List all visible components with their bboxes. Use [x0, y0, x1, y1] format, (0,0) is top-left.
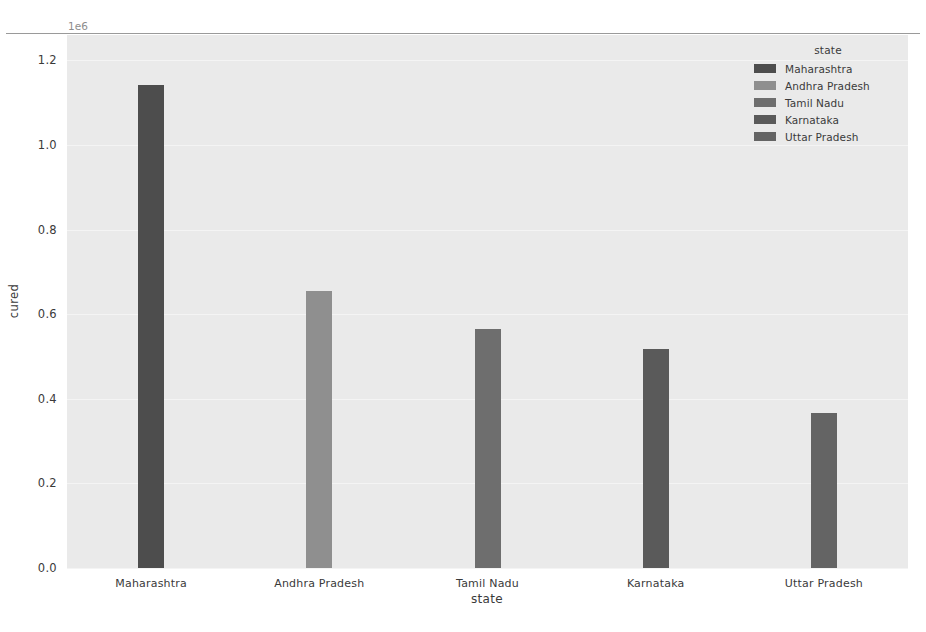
y-axis-label: cured	[7, 284, 21, 318]
legend-swatch-icon	[754, 81, 776, 90]
legend-swatch-icon	[754, 64, 776, 73]
y-tick-label: 0.2	[38, 476, 57, 490]
x-tick-label: Uttar Pradesh	[785, 577, 863, 590]
legend-label: Andhra Pradesh	[785, 80, 870, 92]
figure-top-rule	[6, 33, 920, 34]
y-tick-label: 1.0	[38, 138, 57, 152]
bar	[306, 291, 332, 568]
legend-label: Karnataka	[785, 114, 839, 126]
legend: state MaharashtraAndhra PradeshTamil Nad…	[748, 38, 908, 151]
x-tick-label: Karnataka	[627, 577, 685, 590]
legend-swatch-icon	[754, 98, 776, 107]
bar-chart-figure: 1e6 0.00.20.40.60.81.01.2 cured Maharash…	[0, 0, 926, 632]
legend-title: state	[754, 44, 902, 56]
y-tick-label: 0.4	[38, 392, 57, 406]
bar	[138, 85, 164, 569]
legend-swatch-icon	[754, 132, 776, 141]
legend-label: Maharashtra	[785, 63, 852, 75]
bar	[475, 329, 501, 568]
legend-swatch-icon	[754, 115, 776, 124]
legend-label: Uttar Pradesh	[785, 131, 858, 143]
legend-entry: Uttar Pradesh	[754, 128, 902, 145]
y-axis-offset-label: 1e6	[68, 20, 88, 32]
x-tick-label: Andhra Pradesh	[274, 577, 364, 590]
y-tick-label: 1.2	[38, 53, 57, 67]
legend-entry: Tamil Nadu	[754, 94, 902, 111]
y-tick-label: 0.8	[38, 223, 57, 237]
x-axis-label: state	[471, 592, 503, 606]
bar	[811, 413, 837, 568]
x-tick-label: Maharashtra	[115, 577, 187, 590]
bar	[643, 349, 669, 568]
legend-label: Tamil Nadu	[785, 97, 844, 109]
x-tick-label: Tamil Nadu	[456, 577, 519, 590]
legend-entry: Andhra Pradesh	[754, 77, 902, 94]
legend-entries: MaharashtraAndhra PradeshTamil NaduKarna…	[754, 60, 902, 145]
y-tick-label: 0.0	[38, 561, 57, 575]
legend-entry: Karnataka	[754, 111, 902, 128]
legend-entry: Maharashtra	[754, 60, 902, 77]
y-tick-label: 0.6	[38, 307, 57, 321]
